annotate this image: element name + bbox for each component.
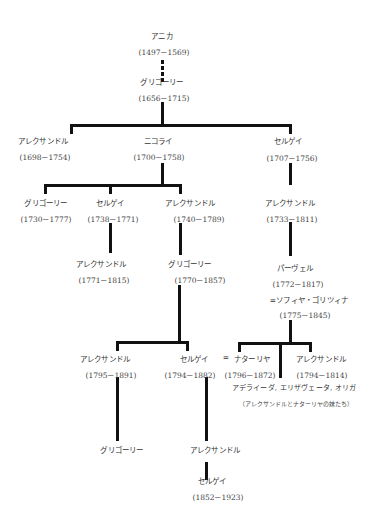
connector-line: [309, 342, 312, 352]
person-dates: (1707－1756): [266, 152, 317, 163]
person-dates: (1698－1754): [19, 151, 70, 162]
connector-line: [116, 341, 119, 351]
person-dates: (1770－1857): [174, 274, 225, 285]
person-name: セルゲイ: [180, 353, 209, 364]
connector-line: [289, 320, 292, 343]
spouse-name: =ソフィヤ・ゴリツィナ: [270, 294, 348, 305]
connector-line: [178, 285, 181, 342]
sisters-note: （アレクサンドルとナターリヤの妹たち）: [239, 399, 353, 408]
connector-line: [289, 124, 292, 134]
person-dates: (1794－1814): [296, 369, 347, 380]
person-name: セルゲイ: [96, 197, 125, 208]
spouse-dates: (1775－1845): [279, 309, 330, 320]
person-name: グリゴーリー: [140, 76, 183, 87]
person-name: グリゴーリー: [168, 258, 211, 269]
person-dates: (1794－1882): [164, 369, 215, 380]
person-name: セルゲイ: [274, 135, 303, 146]
connector-line: [161, 102, 164, 126]
connector-line: [109, 184, 112, 194]
marriage-sign: =: [223, 353, 229, 362]
person-name: アレクサンドル: [190, 444, 240, 455]
person-dates: (1730－1777): [20, 213, 71, 224]
connector-line: [205, 377, 208, 441]
connector-line: [116, 341, 189, 344]
sisters-names: アデライーダ, エリザヴェータ, オリガ: [232, 382, 357, 392]
connector-line: [289, 163, 292, 185]
person-dates: (1796－1872): [224, 369, 275, 380]
person-name: グリゴーリー: [100, 444, 143, 455]
connector-line: [238, 342, 312, 345]
connector-line: [186, 341, 189, 351]
person-name: アレクサンドル: [296, 353, 346, 364]
person-dates: (1795－1891): [85, 369, 136, 380]
connector-line: [109, 223, 112, 253]
person-dates: (1852－1923): [192, 491, 243, 502]
person-dates: (1772－1817): [272, 278, 323, 289]
person-dates: (1656－1715): [138, 92, 189, 103]
person-dates: (1700－1758): [133, 151, 184, 162]
person-dates: (1738－1771): [87, 213, 138, 224]
person-name: アニカ: [151, 30, 173, 41]
connector-line: [289, 222, 292, 256]
person-name: アレクサンドル: [265, 197, 315, 208]
connector-line: [116, 377, 119, 441]
person-dates: (1740－1789): [173, 213, 224, 224]
person-name: アレクサンドル: [76, 258, 126, 269]
person-name: セルゲイ: [198, 475, 227, 486]
person-dates: (1771－1815): [78, 274, 129, 285]
person-name: パーヴェル: [277, 262, 313, 273]
person-name: アレクサンドル: [80, 353, 130, 364]
person-name: グリゴーリー: [24, 197, 67, 208]
person-dates: (1497－1569): [138, 46, 189, 57]
connector-line: [279, 342, 282, 378]
person-name: ニコライ: [144, 135, 173, 146]
connector-line: [179, 184, 182, 194]
person-name: アレクサンドル: [18, 135, 68, 146]
connector-line: [161, 163, 164, 186]
connector-line: [70, 124, 292, 127]
connector-line: [44, 184, 47, 194]
person-dates: (1733－1811): [266, 213, 317, 224]
connector-line: [179, 223, 182, 255]
person-name: ナターリヤ: [234, 353, 270, 364]
connector-line: [238, 342, 241, 352]
person-name: アレクサンドル: [165, 197, 215, 208]
connector-line: [44, 184, 182, 187]
connector-line: [70, 124, 73, 134]
